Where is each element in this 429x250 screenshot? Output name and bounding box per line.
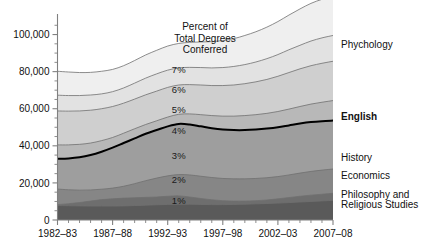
y-tick-label: 80,000	[19, 66, 50, 77]
x-tick-label: 1987–88	[93, 228, 132, 239]
series-label-english: English	[341, 111, 377, 122]
chart-title-line: Percent of	[182, 21, 228, 32]
x-tick-label: 1992–93	[148, 228, 187, 239]
plot-right-mask	[333, 0, 429, 250]
y-tick-label: 20,000	[19, 178, 50, 189]
series-label-phychology: Phychology	[341, 39, 393, 50]
y-tick-label: 60,000	[19, 103, 50, 114]
chart-title-line: Conferred	[183, 44, 227, 55]
y-tick-label: 0	[44, 215, 50, 226]
percent-label-3pct: 3%	[172, 150, 186, 161]
y-tick-label: 40,000	[19, 140, 50, 151]
series-label-religious-studies: Religious Studies	[341, 199, 418, 210]
chart-canvas: 020,00040,00060,00080,000100,0001982–831…	[0, 0, 429, 250]
chart-title-line: Total Degrees	[174, 33, 236, 44]
x-tick-label: 2007–08	[314, 228, 353, 239]
percent-label-1pct: 1%	[172, 195, 186, 206]
percent-label-6pct: 6%	[172, 84, 186, 95]
x-tick-label: 2002–03	[258, 228, 297, 239]
x-tick-label: 1997–98	[203, 228, 242, 239]
percent-label-5pct: 5%	[172, 104, 186, 115]
series-label-history: History	[341, 152, 372, 163]
stacked-area-chart: 020,00040,00060,00080,000100,0001982–831…	[0, 0, 429, 250]
percent-label-4pct: 4%	[172, 125, 186, 136]
y-tick-label: 100,000	[13, 29, 50, 40]
percent-label-2pct: 2%	[172, 174, 186, 185]
percent-label-7pct: 7%	[172, 64, 186, 75]
series-label-economics: Economics	[341, 170, 390, 181]
x-tick-label: 1982–83	[38, 228, 77, 239]
